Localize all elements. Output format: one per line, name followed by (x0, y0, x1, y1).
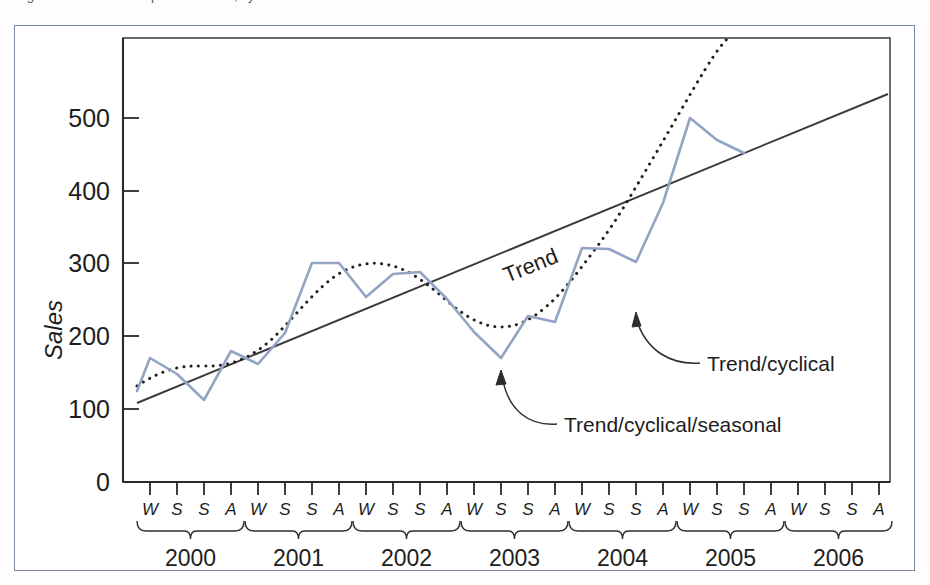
figure-root: Figure Time series components: trend, cy… (0, 0, 930, 585)
figure-caption-text: Figure Time series components: trend, cy… (16, 0, 364, 2)
figure-caption-cropped: Figure Time series components: trend, cy… (0, 0, 930, 22)
figure-outer-border (14, 25, 915, 571)
